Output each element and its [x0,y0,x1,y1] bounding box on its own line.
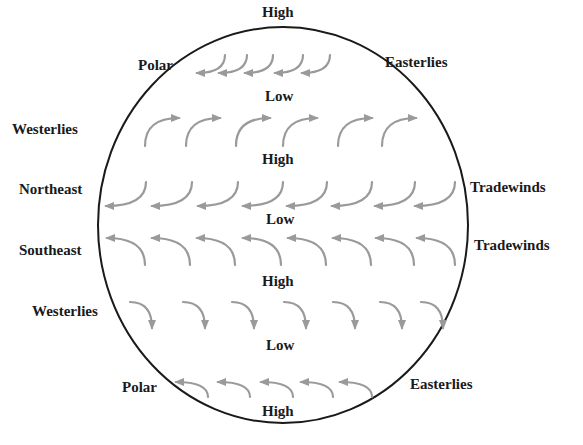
wind-arrow-southeast-tradewinds [417,238,455,265]
wind-label-polar-south: Polar [122,380,157,395]
wind-arrow-westerlies-north [186,118,220,146]
wind-arrow-northeast-tradewinds [287,182,327,206]
wind-arrow-westerlies-north [338,118,372,146]
pressure-label-high-south-pole: High [262,404,294,419]
wind-arrow-westerlies-south [130,302,152,328]
wind-arrow-southeast-tradewinds [152,238,190,265]
pressure-label-low-60s: Low [266,338,294,353]
wind-arrow-southeast-tradewinds [333,238,371,265]
wind-arrow-northeast-tradewinds [106,182,146,206]
wind-arrow-polar-easterlies-south [340,382,372,397]
wind-arrow-westerlies-north [283,118,317,146]
wind-arrow-northeast-tradewinds [198,182,238,206]
pressure-label-low-60n: Low [265,89,293,104]
wind-arrow-northeast-tradewinds [332,182,372,206]
wind-arrow-polar-easterlies-south [261,382,293,397]
wind-arrow-northeast-tradewinds [375,182,415,206]
wind-arrow-westerlies-south [284,302,306,328]
wind-arrow-westerlies-north [145,118,179,146]
wind-label-tradewinds-north: Tradewinds [470,180,546,195]
pressure-label-high-30n: High [262,152,294,167]
wind-arrow-westerlies-south [380,302,402,328]
wind-arrow-northeast-tradewinds [152,182,192,206]
wind-label-easterlies-north: Easterlies [385,55,447,70]
wind-arrow-polar-easterlies-south [301,382,333,397]
wind-arrow-southeast-tradewinds [107,238,145,265]
wind-arrow-westerlies-south [232,302,254,328]
wind-arrow-northeast-tradewinds [415,182,455,206]
wind-label-easterlies-south: Easterlies [410,377,472,392]
wind-arrow-westerlies-north [382,118,416,146]
wind-arrow-westerlies-south [183,302,205,328]
wind-arrow-southeast-tradewinds [288,238,326,265]
pressure-label-low-equator: Low [266,212,294,227]
wind-arrow-polar-easterlies-north [302,55,330,73]
wind-arrow-southeast-tradewinds [197,238,235,265]
wind-label-tradewinds-south: Tradewinds [474,238,550,253]
wind-label-northeast: Northeast [19,182,82,197]
wind-arrow-northeast-tradewinds [243,182,283,206]
wind-arrow-southeast-tradewinds [376,238,414,265]
wind-arrow-polar-easterlies-north [245,55,273,73]
wind-arrow-polar-easterlies-south [218,382,250,397]
wind-label-westerlies-north: Westerlies [12,122,78,137]
wind-label-westerlies-south: Westerlies [32,304,98,319]
pressure-label-high-north-pole: High [262,5,294,20]
wind-arrow-westerlies-south [333,302,355,328]
wind-label-polar-north: Polar [138,58,173,73]
wind-label-southeast: Southeast [19,243,82,258]
wind-arrow-southeast-tradewinds [243,238,281,265]
wind-arrow-polar-easterlies-north [197,55,225,73]
wind-arrow-westerlies-north [236,118,270,146]
wind-arrow-westerlies-south [421,302,443,328]
pressure-label-high-30s: High [262,274,294,289]
wind-arrow-polar-easterlies-north [275,55,303,73]
